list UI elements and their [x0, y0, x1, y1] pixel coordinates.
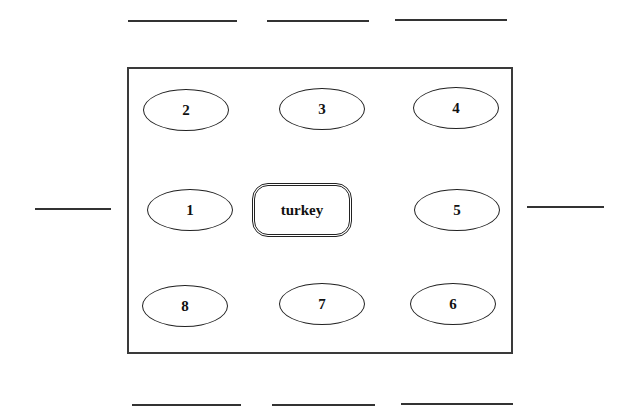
seat-5: 5 — [414, 189, 500, 231]
turkey-label: turkey — [281, 202, 324, 219]
name-blank-left[interactable] — [35, 208, 111, 210]
name-blank-top-3[interactable] — [395, 19, 507, 21]
seat-number: 6 — [449, 296, 457, 313]
seat-4: 4 — [413, 87, 499, 129]
seat-number: 2 — [182, 102, 190, 119]
turkey-platter: turkey — [252, 183, 352, 237]
seat-8: 8 — [142, 285, 228, 327]
name-blank-top-2[interactable] — [267, 20, 369, 22]
seat-3: 3 — [279, 88, 365, 130]
seat-2: 2 — [143, 89, 229, 131]
seat-1: 1 — [147, 189, 233, 231]
seat-6: 6 — [410, 283, 496, 325]
name-blank-top-1[interactable] — [128, 20, 237, 22]
seat-number: 1 — [186, 202, 194, 219]
name-blank-bottom-1[interactable] — [132, 404, 241, 406]
name-blank-bottom-3[interactable] — [401, 403, 513, 405]
seat-number: 5 — [453, 202, 461, 219]
seat-7: 7 — [279, 283, 365, 325]
name-blank-right[interactable] — [527, 206, 604, 208]
seat-number: 3 — [318, 101, 326, 118]
seat-number: 7 — [318, 296, 326, 313]
seat-number: 4 — [452, 100, 460, 117]
seat-number: 8 — [181, 298, 189, 315]
name-blank-bottom-2[interactable] — [272, 404, 375, 406]
